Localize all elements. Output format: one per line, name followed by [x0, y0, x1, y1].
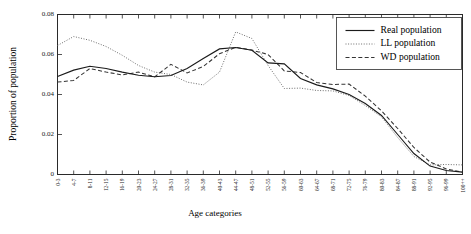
- y-tick-label: 0.08: [42, 10, 55, 18]
- x-tick-label: 84-87: [395, 178, 401, 191]
- x-tick-label: 36-39: [200, 178, 206, 191]
- x-tick-label: 16-19: [119, 178, 125, 191]
- x-tick-label: 72-75: [346, 178, 352, 191]
- x-tick-label: 24-27: [152, 178, 158, 191]
- x-tick-label: 96-99: [443, 178, 449, 191]
- legend-label-1: LL population: [381, 37, 436, 48]
- chart-container: 00.020.040.060.080-34-78-1112-1516-1920-…: [0, 0, 471, 234]
- y-tick-label: 0.02: [42, 130, 55, 138]
- x-tick-label: 20-23: [136, 178, 142, 191]
- x-tick-label: 92-95: [427, 178, 433, 191]
- x-tick-label: 52-55: [265, 178, 271, 191]
- y-tick-label: 0.06: [42, 50, 55, 58]
- y-axis-title: Proportion of population: [8, 47, 18, 141]
- x-tick-label: 68-71: [330, 178, 336, 191]
- x-tick-label: 100++: [460, 179, 466, 193]
- x-tick-label: 0-3: [55, 178, 61, 185]
- x-tick-label: 48-51: [249, 178, 255, 191]
- x-tick-label: 28-31: [168, 178, 174, 191]
- x-tick-label: 44-47: [233, 178, 239, 191]
- x-tick-label: 12-15: [103, 178, 109, 191]
- x-tick-label: 56-59: [281, 178, 287, 191]
- x-tick-label: 8-11: [87, 178, 93, 188]
- y-tick-label: 0.04: [42, 90, 55, 98]
- x-tick-label: 60-63: [298, 178, 304, 191]
- line-chart: 00.020.040.060.080-34-78-1112-1516-1920-…: [0, 0, 471, 234]
- x-tick-label: 32-35: [184, 178, 190, 191]
- x-tick-label: 40-43: [217, 178, 223, 191]
- x-axis-title: Age categories: [188, 208, 242, 218]
- legend-label-0: Real population: [381, 24, 442, 35]
- x-tick-label: 80-83: [379, 178, 385, 191]
- x-tick-label: 88-91: [411, 178, 417, 191]
- x-tick-label: 76-79: [362, 178, 368, 191]
- x-tick-label: 64-67: [314, 178, 320, 191]
- legend-label-2: WD population: [381, 51, 441, 62]
- y-tick-label: 0: [51, 170, 55, 178]
- x-tick-label: 4-7: [71, 178, 77, 185]
